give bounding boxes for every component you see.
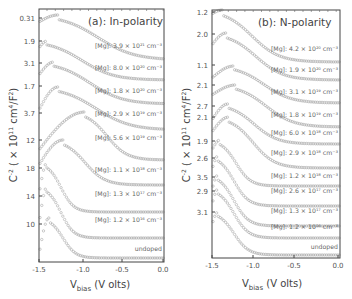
series-label: [Mg]: 1.9 × 10²⁰ cm⁻³: [271, 66, 339, 74]
series-label: [Mg]: 1.2 × 10¹⁸ cm⁻³: [271, 172, 339, 180]
x-tick-label: -1.0: [76, 266, 90, 274]
series-label: [Mg]: 1.8 × 10²⁰ cm⁻³: [95, 87, 163, 95]
series-label: [Mg]: 1.8 × 10¹⁹ cm⁻³: [271, 111, 339, 119]
series-label: [Mg]: 2.6 × 10¹⁷ cm⁻³: [271, 187, 339, 195]
series-label: [Mg]: 4.2 × 10²⁰ cm⁻³: [271, 45, 339, 53]
series-label: [Mg]: 3.9 × 10²¹ cm⁻³: [95, 42, 163, 50]
series-label: [Mg]: 1.2 × 10¹⁶ cm⁻³: [95, 216, 163, 224]
y-tick-label: 12: [26, 137, 35, 145]
series-label: [Mg]: 5.6 × 10¹⁹ cm⁻³: [95, 134, 163, 142]
series-label: [Mg]: 8.0 × 10²⁰ cm⁻³: [95, 64, 163, 72]
y-tick-label: 2.9: [197, 188, 208, 196]
series-label: [Mg]: 2.9 × 10¹⁹ cm⁻³: [95, 110, 163, 118]
series-label: [Mg]: 1.3 × 10¹⁷ cm⁻³: [271, 207, 339, 215]
series-curve: [212, 32, 340, 81]
x-tick-label: -1.5: [205, 262, 219, 270]
y-tick-label: 14: [26, 193, 35, 201]
panel-b-x-axis-label: Vbias (V olts): [242, 278, 302, 292]
series-label: [Mg]: 1.1 × 10¹⁸ cm⁻³: [95, 166, 163, 174]
y-tick-label: 3.5: [197, 174, 208, 182]
y-tick-label: 1.1: [197, 62, 208, 70]
series-curve: [39, 217, 164, 259]
y-tick-label: 3.7: [24, 110, 35, 118]
panel-a-y-axis-label: C-2 ( × 1011 cm4/F2): [7, 88, 19, 182]
panel-a-title: (a): In-polarity: [88, 15, 163, 27]
y-tick-label: 2.7: [197, 103, 208, 111]
x-tick-label: 0.0: [332, 262, 343, 270]
panel-a: (a): In-polarity 0.311.93.11.73.71218141…: [7, 9, 169, 293]
series-label: [Mg]: 1.2 × 10¹⁶ cm⁻³: [271, 223, 339, 231]
panel-b-y-axis-label: C-2 ( × 1011 cm4/F2): [180, 88, 192, 182]
series-label: [Mg]: 3.1 × 10¹⁹ cm⁻³: [271, 88, 339, 96]
y-tick-label: 0.31: [19, 15, 35, 23]
y-tick-label: 2.0: [197, 31, 208, 39]
series-label: undoped: [311, 243, 338, 251]
series-label: [Mg]: 6.0 × 10¹⁸ cm⁻³: [271, 129, 339, 137]
x-tick-label: 0.0: [157, 266, 168, 274]
series-label: [Mg]: 2.9 × 10¹⁸ cm⁻³: [271, 149, 339, 157]
x-tick-label: -1.0: [246, 262, 260, 270]
y-tick-label: 3.1: [197, 209, 208, 217]
series-label: [Mg]: 1.3 × 10¹⁷ cm⁻³: [95, 190, 163, 198]
panel-a-x-axis-label: Vbias (V olts): [70, 279, 130, 293]
panel-b-title: (b): N-polarity: [258, 16, 331, 28]
panel-b-series-labels: [Mg]: 4.2 × 10²⁰ cm⁻³[Mg]: 1.9 × 10²⁰ cm…: [271, 45, 339, 251]
x-tick-label: -0.5: [287, 262, 301, 270]
x-tick-label: -1.5: [32, 266, 46, 274]
y-tick-label: 18: [26, 165, 35, 173]
y-tick-label: 2.1: [197, 114, 208, 122]
series-label: undoped: [135, 245, 162, 253]
series-curve: [212, 175, 340, 227]
y-tick-label: 2.6: [197, 155, 209, 163]
y-tick-label: 3.1: [24, 60, 35, 68]
y-tick-label: 10: [26, 221, 35, 229]
cv-figure: (a): In-polarity 0.311.93.11.73.71218141…: [0, 0, 352, 299]
series-curve: [212, 139, 340, 187]
panel-b: (b): N-polarity 1.22.01.12.12.72.11.92.6…: [180, 9, 344, 293]
y-tick-label: 1.9: [197, 138, 208, 146]
y-tick-label: 1.7: [24, 83, 35, 91]
y-tick-label: 2.1: [197, 82, 208, 90]
x-tick-label: -0.5: [115, 266, 129, 274]
y-tick-label: 1.2: [197, 9, 208, 17]
y-tick-label: 1.9: [24, 38, 35, 46]
series-curve: [39, 139, 164, 186]
